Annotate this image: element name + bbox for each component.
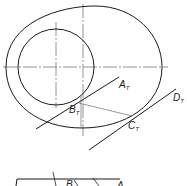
label-bottom-a: A (116, 180, 124, 186)
label-d-t: DT (173, 92, 185, 104)
label-bottom-b: B (66, 179, 73, 186)
connector-bt-ct (79, 103, 132, 116)
bottom-tick-2 (74, 180, 78, 186)
bottom-left-edge (16, 179, 17, 186)
label-b-t: BT (69, 104, 81, 116)
label-c-t: CT (128, 120, 140, 132)
tangent-line-a (36, 77, 119, 129)
geometry-diagram: AT BT CT DT B A (0, 0, 187, 186)
label-a-t: AT (118, 79, 131, 91)
